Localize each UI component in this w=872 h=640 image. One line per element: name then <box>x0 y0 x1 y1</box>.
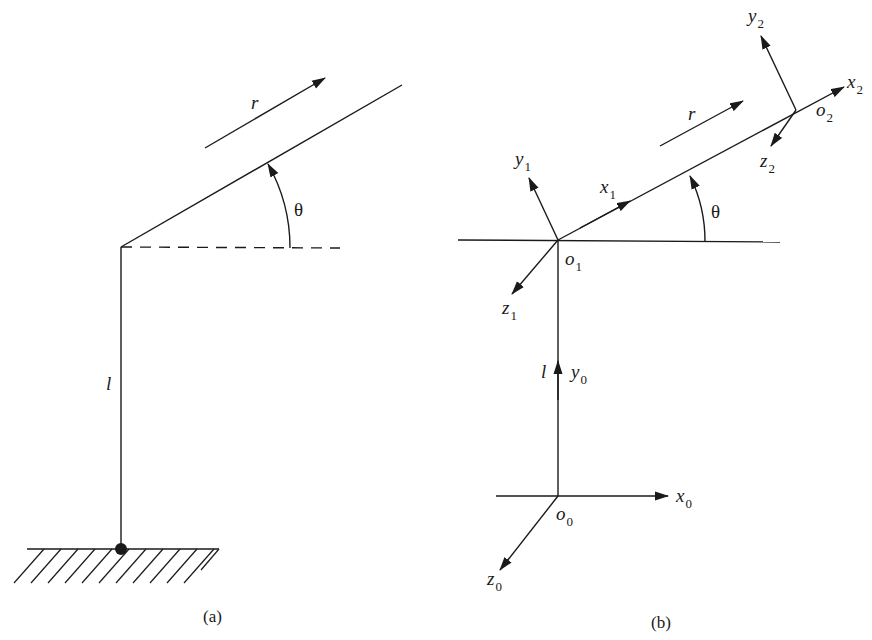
prismatic-link <box>121 85 402 247</box>
label-o0: o0 <box>556 503 573 529</box>
label-theta-b: θ <box>711 201 720 222</box>
y2-arrow <box>761 36 796 110</box>
ground-hatching <box>14 549 219 583</box>
label-z2: z2 <box>759 150 775 176</box>
label-o1: o1 <box>565 248 582 274</box>
label-y2: y2 <box>746 5 764 31</box>
panel-a <box>14 78 402 583</box>
label-o2: o2 <box>816 99 833 125</box>
label-r-a: r <box>251 92 259 113</box>
diagram-svg: r θ l (a) r θ l x1 y1 z1 o1 y0 x0 o0 z0 <box>0 0 872 640</box>
label-x2: x2 <box>846 71 863 97</box>
horizontal-reference-line <box>458 240 780 242</box>
label-x0: x0 <box>675 485 692 511</box>
x1-arrow <box>580 201 630 228</box>
label-r-b: r <box>688 103 696 124</box>
y1-arrow <box>529 178 558 240</box>
label-z0: z0 <box>486 568 502 594</box>
label-l-a: l <box>106 373 111 394</box>
z0-arrow <box>500 496 558 570</box>
z2-arrow <box>771 110 796 146</box>
figure-canvas: r θ l (a) r θ l x1 y1 z1 o1 y0 x0 o0 z0 <box>0 0 872 640</box>
r-arrow-b <box>660 101 743 146</box>
label-y0: y0 <box>569 361 587 387</box>
label-z1: z1 <box>501 297 517 323</box>
dashed-reference-line <box>121 247 340 248</box>
theta-arc-b <box>690 176 705 242</box>
label-l-b: l <box>541 361 546 382</box>
caption-b: (b) <box>651 613 671 632</box>
caption-a: (a) <box>203 607 222 626</box>
r-arrow <box>205 78 325 148</box>
label-y1: y1 <box>513 148 531 174</box>
label-x1: x1 <box>599 176 616 202</box>
theta-arc <box>268 164 290 248</box>
base-joint <box>115 543 127 555</box>
z1-arrow <box>512 240 558 294</box>
panel-b <box>458 36 844 570</box>
label-theta-a: θ <box>294 199 303 220</box>
